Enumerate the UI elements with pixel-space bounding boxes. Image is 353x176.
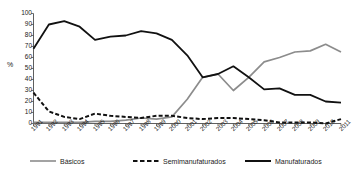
series-line-semimanufaturados: [34, 93, 342, 124]
plot-area: [0, 0, 353, 176]
chart-container: % 1009080706050403020100 199119921993199…: [0, 0, 353, 176]
legend-item-semimanufaturados[interactable]: Semimanufaturados: [133, 158, 226, 165]
legend-label-manufaturados: Manufaturados: [275, 158, 322, 165]
legend-item-basicos[interactable]: Básicos: [30, 158, 85, 165]
legend-label-semimanufaturados: Semimanufaturados: [163, 158, 226, 165]
axes: [31, 14, 341, 127]
series-line-manufaturados: [34, 21, 342, 102]
chart-legend: Básicos Semimanufaturados Manufaturados: [0, 152, 353, 170]
legend-item-manufaturados[interactable]: Manufaturados: [245, 158, 322, 165]
legend-label-basicos: Básicos: [60, 158, 85, 165]
data-series: [34, 21, 342, 123]
